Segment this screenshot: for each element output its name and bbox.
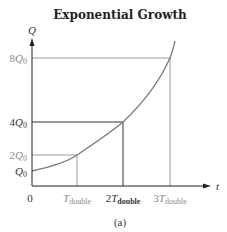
x-tick-2t: 2Tdouble [106, 192, 141, 206]
y-tick-2q0: 2Q0 [10, 149, 27, 163]
x-axis-arrow-icon [203, 184, 211, 189]
chart-title: Exponential Growth [53, 8, 187, 22]
y-tick-4q0: 4Q0 [10, 116, 27, 130]
x-tick-origin: 0 [27, 192, 33, 204]
y-axis-arrow-icon [30, 38, 35, 46]
figure-caption: (a) [114, 216, 127, 229]
exponential-growth-chart: Exponential Growth Q t 8Q0 4Q0 2Q0 Q0 0 … [0, 0, 227, 232]
x-tick-1t: Tdouble [63, 192, 91, 206]
exponential-curve [32, 41, 175, 171]
y-tick-q0: Q0 [15, 165, 27, 179]
x-tick-3t: 3Tdouble [153, 192, 187, 206]
y-axis-label: Q [28, 24, 36, 36]
y-tick-8q0: 8Q0 [10, 52, 27, 66]
x-axis-label: t [216, 180, 220, 192]
